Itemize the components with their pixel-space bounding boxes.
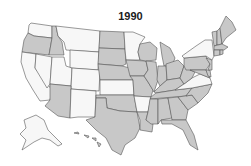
state-nd (99, 31, 125, 49)
state-hi (74, 132, 101, 147)
state-ny (182, 40, 214, 60)
state-ct (214, 50, 220, 56)
state-sd (98, 48, 126, 66)
state-ut (50, 57, 72, 86)
state-ia (126, 60, 148, 76)
state-fl (161, 120, 198, 150)
state-co (71, 68, 100, 91)
state-ak (20, 115, 62, 150)
state-nm (70, 89, 96, 118)
state-wi (138, 42, 157, 61)
state-ri (220, 50, 223, 55)
state-wy (70, 50, 99, 70)
us-states-map (0, 0, 251, 166)
state-ks (100, 80, 134, 95)
state-me (220, 16, 236, 44)
